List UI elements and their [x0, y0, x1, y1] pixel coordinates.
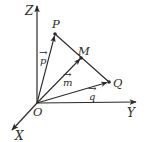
y-axis-label: Y	[127, 106, 136, 120]
diagram-svg: Z Y X O P M Q p → m → q →	[0, 0, 147, 142]
point-p-label: P	[51, 17, 60, 31]
origin-label: O	[33, 105, 43, 119]
x-axis-label: X	[14, 129, 24, 142]
point-q-label: Q	[113, 76, 123, 90]
point-m-label: M	[77, 44, 91, 58]
vector-diagram: Z Y X O P M Q p → m → q →	[0, 0, 147, 142]
z-axis-label: Z	[24, 4, 34, 18]
vector-m-arrow: →	[63, 69, 72, 80]
vector-q-arrow: →	[88, 83, 97, 94]
y-axis	[37, 102, 136, 103]
point-p-dot	[53, 32, 57, 36]
point-q-dot	[107, 80, 111, 84]
vector-p-arrow: →	[39, 47, 48, 58]
